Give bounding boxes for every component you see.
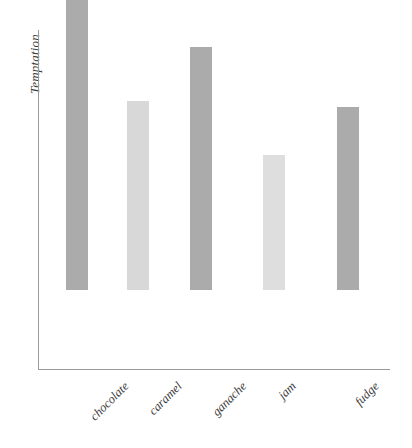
plot-area (0, 0, 412, 369)
x-tick-label-jam: jam (275, 379, 299, 403)
bar-caramel[interactable] (127, 101, 149, 290)
bar-chart: Temptation chocolatecaramelganachejamfud… (0, 0, 412, 448)
x-tick-label-ganache: ganache (209, 379, 250, 420)
bar-jam[interactable] (263, 155, 285, 290)
x-axis-tick-labels: chocolatecaramelganachejamfudge (0, 369, 412, 448)
bar-chocolate[interactable] (66, 0, 88, 290)
bar-fudge[interactable] (337, 107, 359, 290)
x-tick-label-caramel: caramel (146, 379, 186, 419)
bar-ganache[interactable] (190, 47, 212, 290)
x-tick-label-chocolate: chocolate (87, 379, 132, 424)
x-tick-label-fudge: fudge (352, 379, 382, 409)
